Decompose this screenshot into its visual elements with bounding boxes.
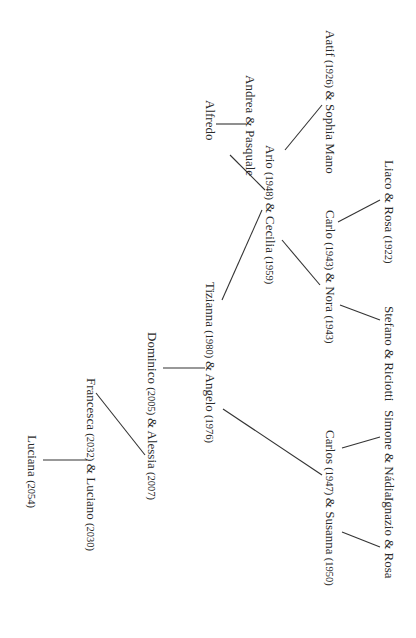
family-tree-diagram: Aatif (1926) & Sophia Mano Liaco & Rosa … — [0, 0, 416, 638]
svg-text:Tizianna (1980): Tizianna (1980) & Angelo (1976) — [203, 282, 218, 444]
name: Angelo — [203, 374, 218, 416]
ampersand: & — [382, 349, 397, 362]
link-dominico-francesca — [96, 393, 145, 455]
node-carlos: Carlos (1947) & Susanna (1950) — [323, 430, 338, 586]
name: Nádia — [382, 466, 397, 497]
ampersand: & — [145, 418, 160, 431]
node-luciana: Luciana (2054) — [25, 435, 40, 509]
name: Rosa — [382, 553, 397, 579]
node-ario: Ario (1948) & Cecilia (1959) — [263, 145, 278, 285]
name: Francesca — [84, 378, 99, 433]
link-aatif-ario — [285, 105, 322, 150]
node-simone: Simone & Nádia — [382, 410, 397, 498]
name: Stefano — [382, 306, 397, 349]
svg-text:Aatif (1926) &: Aatif (1926) & Sophia Mano — [323, 30, 338, 174]
year: (1922) — [382, 235, 394, 263]
name: Cecilia — [263, 216, 278, 256]
node-francesca: Francesca (2032) & Luciano (2030) — [84, 378, 99, 552]
year: (1926) — [323, 60, 335, 91]
name: Pasquale — [243, 130, 258, 176]
name: Nora — [323, 286, 338, 315]
node-carlo: Carlo (1943) & Nora (1943) — [323, 210, 338, 344]
name: Susanna — [323, 511, 338, 558]
name: Andrea — [243, 75, 258, 117]
ampersand: & — [382, 539, 397, 552]
name: Riciotti — [382, 362, 397, 401]
link-ario-tizianna — [222, 210, 262, 300]
node-tizianna: Tizianna (1980) & Angelo (1976) — [203, 282, 218, 444]
name: Tizianna — [203, 282, 218, 330]
node-alfredo: Alfredo — [203, 100, 218, 140]
ampersand: & — [243, 117, 258, 130]
name: Luciana — [25, 435, 40, 480]
svg-text:Francesca (2032): Francesca (2032) & Luciano (2030) — [84, 378, 99, 552]
ampersand: & — [323, 498, 338, 511]
name: Ario — [263, 145, 278, 172]
svg-text:Dominico (2005): Dominico (2005) & Alessia (2007) — [145, 332, 160, 501]
name: Carlos — [323, 430, 338, 467]
svg-text:Andrea & Pasqual: Andrea & Pasquale — [243, 75, 258, 176]
svg-text:Carlos (1947) &: Carlos (1947) & Susanna (1950) — [323, 430, 338, 586]
name: Luciano — [84, 477, 99, 523]
year: (1959) — [263, 256, 275, 284]
svg-text:Stefano & Riciot: Stefano & Riciotti — [382, 306, 397, 402]
year: (2054) — [25, 480, 37, 508]
ampersand: & — [263, 203, 278, 216]
ampersand: & — [203, 361, 218, 374]
svg-text:Ignazio & Rosa: Ignazio & Rosa — [382, 497, 397, 579]
name: Alfredo — [203, 100, 218, 140]
year: (2032) — [84, 433, 96, 464]
svg-text:Simone & Nádia: Simone & Nádia — [382, 410, 397, 498]
name: Dominico — [145, 332, 160, 387]
link-stefano-carlo — [340, 305, 380, 320]
link-carlo-ario — [282, 240, 320, 285]
link-carlos-tizianna — [223, 409, 322, 475]
year: (1947) — [323, 467, 335, 498]
link-liaco-carlo — [338, 200, 380, 222]
year: (1976) — [203, 415, 215, 443]
svg-text:Carlo (1943) &: Carlo (1943) & Nora (1943) — [323, 210, 338, 344]
ampersand: & — [382, 453, 397, 466]
node-dominico: Dominico (2005) & Alessia (2007) — [145, 332, 160, 501]
name: Simone — [382, 410, 397, 453]
node-ignazio: Ignazio & Rosa — [382, 497, 397, 579]
link-ignazio-carlos — [342, 532, 380, 547]
year: (1950) — [323, 558, 335, 586]
node-stefano: Stefano & Riciotti — [382, 306, 397, 402]
node-andrea: Andrea & Pasquale — [243, 75, 258, 176]
link-simone-carlos — [342, 437, 380, 448]
svg-text:Liaco & Rosa: Liaco & Rosa (1922) — [382, 160, 397, 264]
year: (1948) — [263, 172, 275, 203]
year: (2030) — [84, 523, 96, 551]
name: Rosa — [382, 206, 397, 235]
name: Ignazio — [382, 497, 397, 539]
year: (1943) — [323, 315, 335, 343]
year: (2005) — [145, 387, 157, 418]
year: (1943) — [323, 242, 335, 273]
ampersand: & — [323, 273, 338, 286]
year: (2007) — [145, 472, 157, 500]
svg-text:Luciana (2054): Luciana (2054) — [25, 435, 40, 509]
ampersand: & — [84, 464, 99, 477]
name: Alessia — [145, 431, 160, 473]
ampersand: & — [382, 193, 397, 206]
node-liaco: Liaco & Rosa (1922) — [382, 160, 397, 264]
ampersand: & — [323, 91, 338, 104]
svg-text:Alfredo: Alfredo — [203, 100, 218, 140]
name: Liaco — [382, 160, 397, 193]
svg-text:Ario (1948) &: Ario (1948) & Cecilia (1959) — [263, 145, 278, 285]
name: Sophia Mano — [323, 104, 338, 174]
name: Carlo — [323, 210, 338, 242]
year: (1980) — [203, 330, 215, 361]
name: Aatif — [323, 30, 338, 60]
node-aatif: Aatif (1926) & Sophia Mano — [323, 30, 338, 174]
